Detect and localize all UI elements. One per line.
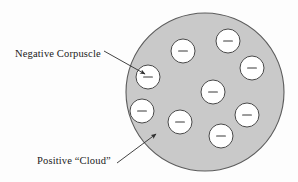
negative-corpuscle <box>240 56 264 80</box>
diagram-canvas: Negative Corpuscle Positive “Cloud” <box>0 0 298 182</box>
negative-corpuscle-label: Negative Corpuscle <box>15 48 101 59</box>
negative-corpuscle <box>168 110 192 134</box>
negative-corpuscle <box>235 103 259 127</box>
negative-corpuscle <box>209 124 233 148</box>
negative-corpuscle <box>201 80 225 104</box>
positive-cloud-label: Positive “Cloud” <box>37 155 111 166</box>
negative-corpuscle <box>136 65 160 89</box>
negative-corpuscle <box>130 99 154 123</box>
negative-corpuscle <box>216 29 240 53</box>
negative-corpuscle <box>171 39 195 63</box>
plum-pudding-diagram: Negative Corpuscle Positive “Cloud” <box>0 0 298 182</box>
